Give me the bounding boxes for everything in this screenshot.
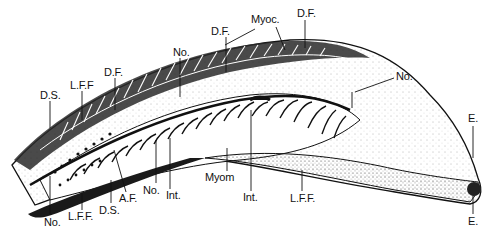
label-lateral-fin-fold-top: L.F.F [70, 80, 93, 91]
label-lateral-fin-fold-bottom-right: L.F.F. [290, 193, 315, 204]
label-intestine-right: Int. [243, 192, 258, 203]
label-dorsal-fin-left: D.F. [104, 67, 123, 78]
label-myocommata: Myoc. [251, 14, 279, 25]
label-dorsal-fin-mid: D.F. [211, 26, 230, 37]
label-anal-fin: A.F. [119, 193, 137, 204]
label-intestine-left: Int. [166, 190, 181, 201]
label-notochord-right: No. [396, 71, 413, 82]
label-myotome: Myom [205, 172, 234, 183]
label-notochord-bottom-left: No. [44, 217, 61, 228]
label-notochord-bottom-mid: No. [143, 185, 160, 196]
label-dorsal-skin-top: D.S. [40, 90, 61, 101]
label-notochord-top: No. [173, 47, 190, 58]
amphioxus-diagram: D.S. L.F.F D.F. No. D.F. Myoc. D.F. No. … [0, 0, 493, 236]
label-lateral-fin-fold-bottom-left: L.F.F. [68, 211, 93, 222]
tail-tip [467, 182, 481, 196]
label-e-top: E. [468, 113, 478, 124]
label-dorsal-skin-bottom: D.S. [99, 205, 120, 216]
label-dorsal-fin-right: D.F. [297, 8, 316, 19]
label-e-bottom: E. [468, 216, 478, 227]
